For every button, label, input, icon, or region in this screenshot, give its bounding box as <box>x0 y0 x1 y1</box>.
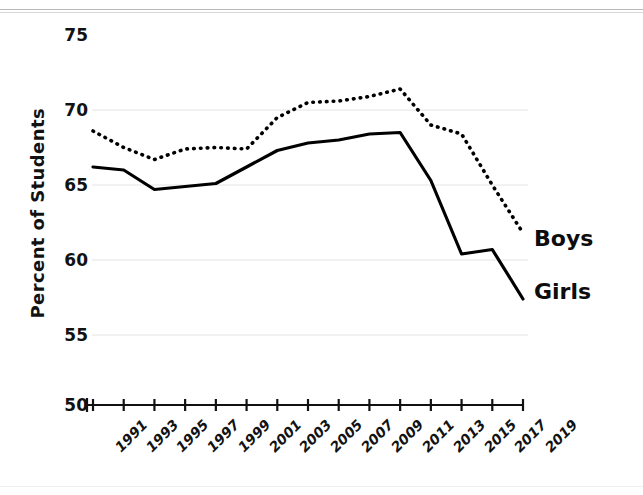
series-label-girls: Girls <box>534 281 591 303</box>
series-lines <box>93 89 523 299</box>
series-line-girls <box>93 133 523 300</box>
series-label-boys: Boys <box>534 228 593 250</box>
line-chart: Percent of Students 75 70 65 60 55 50 19… <box>0 0 643 495</box>
series-line-boys <box>93 89 523 233</box>
x-axis <box>87 398 524 412</box>
